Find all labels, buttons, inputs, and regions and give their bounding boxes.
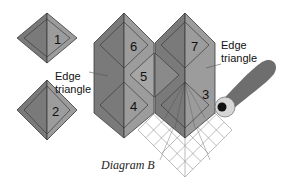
diamond-1: 1 — [17, 13, 77, 63]
svg-text:Edge: Edge — [221, 39, 247, 51]
rotary-tool-icon — [215, 60, 276, 117]
piece-number: 1 — [54, 32, 61, 47]
piece-number: 2 — [52, 104, 59, 119]
hexagon-right: 7 3 — [155, 13, 215, 138]
piece-number: 3 — [202, 87, 209, 102]
hexagon-left: 6 5 4 — [94, 13, 154, 138]
svg-text:triangle: triangle — [55, 83, 91, 95]
piece-number: 5 — [140, 69, 147, 84]
piece-number: 6 — [130, 39, 137, 54]
diagram-caption: Diagram B — [100, 158, 155, 172]
piece-number: 7 — [191, 39, 198, 54]
svg-text:Edge: Edge — [55, 70, 81, 82]
diagram-canvas: 1 2 6 5 4 7 3 — [0, 0, 287, 183]
piece-number: 4 — [130, 99, 137, 114]
svg-text:triangle: triangle — [221, 52, 257, 64]
